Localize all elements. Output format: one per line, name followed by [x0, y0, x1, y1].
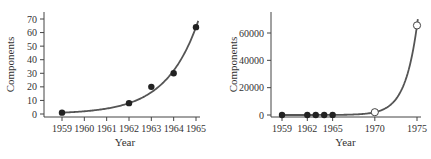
- x-tick-label: 1975: [407, 123, 427, 134]
- y-tick-label: 0: [259, 110, 264, 121]
- y-tick-label: 50: [27, 41, 37, 52]
- x-tick-label: 1961: [97, 123, 117, 134]
- data-point: [193, 24, 199, 30]
- y-tick-label: 60: [27, 27, 37, 38]
- data-point: [279, 112, 285, 118]
- y-axis-title: Components: [227, 37, 239, 93]
- y-tick-label: 20: [27, 81, 37, 92]
- y-tick-label: 10: [27, 95, 37, 106]
- data-point: [148, 84, 154, 90]
- y-tick-label: 40: [27, 54, 37, 65]
- y-tick-label: 20000: [239, 82, 264, 93]
- axes: [271, 12, 421, 117]
- y-tick-label: 0: [32, 109, 37, 120]
- y-tick-label: 60000: [239, 28, 264, 39]
- data-point: [170, 70, 176, 76]
- data-point: [321, 112, 327, 118]
- x-tick-label: 1962: [119, 123, 139, 134]
- x-tick-label: 1960: [74, 123, 94, 134]
- x-tick-label: 1970: [365, 123, 385, 134]
- x-tick-label: 1959: [272, 123, 292, 134]
- predicted-point: [413, 22, 420, 29]
- y-tick-label: 70: [27, 14, 37, 25]
- x-tick-label: 1964: [164, 123, 184, 134]
- data-point: [329, 112, 335, 118]
- predicted-point: [371, 109, 378, 116]
- axes: [44, 12, 200, 117]
- fit-curve: [62, 21, 198, 113]
- data-point: [304, 112, 310, 118]
- x-axis-title: Year: [335, 136, 356, 148]
- x-tick-label: 1962: [297, 123, 317, 134]
- x-tick-label: 1965: [186, 123, 206, 134]
- fit-curve: [282, 19, 418, 115]
- right-chart: 020000400006000019591962196519701975Year…: [227, 12, 427, 148]
- y-tick-label: 40000: [239, 55, 264, 66]
- x-tick-label: 1963: [141, 123, 161, 134]
- data-point: [126, 100, 132, 106]
- y-axis-title: Components: [4, 37, 16, 93]
- charts-canvas: 0102030405060701959196019611962196319641…: [0, 0, 431, 159]
- data-point: [59, 109, 65, 115]
- y-tick-label: 30: [27, 68, 37, 79]
- x-tick-label: 1959: [52, 123, 72, 134]
- x-axis-title: Year: [115, 136, 136, 148]
- left-chart: 0102030405060701959196019611962196319641…: [4, 12, 206, 148]
- x-tick-label: 1965: [323, 123, 343, 134]
- data-point: [313, 112, 319, 118]
